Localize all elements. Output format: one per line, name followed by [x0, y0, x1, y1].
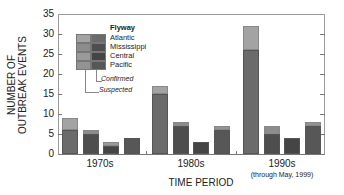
group-separator-tick: [236, 151, 237, 155]
bar-mississippi-1980s: [173, 122, 189, 154]
legend-item-pacific: Pacific: [110, 60, 132, 69]
bar-segment-confirmed: [103, 146, 119, 154]
x-category-1980s: 1980s: [146, 158, 236, 169]
bar-atlantic-1980s: [152, 86, 168, 154]
bar-pacific-1980s: [214, 126, 230, 154]
y-tick-30: 30: [34, 28, 54, 39]
y-tick-10: 10: [34, 108, 54, 119]
bar-central-1970s: [103, 142, 119, 154]
legend-title: Flyway: [110, 23, 135, 32]
legend-swatch-mississippi-suspected: [76, 43, 91, 52]
y-tick-mark: [58, 34, 62, 35]
y-tick-mark: [58, 94, 62, 95]
legend-bracket-suspected: [85, 70, 99, 93]
legend-swatch-pacific-suspected: [76, 61, 91, 70]
legend-swatch-mississippi-confirmed: [91, 43, 106, 52]
legend-swatch-atlantic-suspected: [76, 34, 91, 43]
bar-pacific-1990s: [305, 122, 321, 154]
right-tick-mark: [320, 134, 325, 135]
bar-segment-suspected: [243, 26, 259, 50]
y-tick-0: 0: [34, 148, 54, 159]
legend-note-confirmed: Confirmed: [101, 75, 133, 82]
bar-central-1990s: [284, 138, 300, 154]
legend-swatch-atlantic-confirmed: [91, 34, 106, 43]
bar-pacific-1970s: [124, 138, 140, 154]
y-tick-20: 20: [34, 68, 54, 79]
right-tick-mark: [320, 54, 325, 55]
legend-note-suspected: Suspected: [99, 86, 132, 93]
y-tick-mark: [58, 54, 62, 55]
bar-segment-confirmed: [83, 134, 99, 154]
right-tick-mark: [320, 34, 325, 35]
bar-segment-confirmed: [214, 130, 230, 154]
bar-mississippi-1990s: [264, 126, 280, 154]
bar-segment-confirmed: [193, 142, 209, 154]
legend-swatch-central-suspected: [76, 52, 91, 61]
y-tick-mark: [58, 114, 62, 115]
right-tick-mark: [320, 94, 325, 95]
bar-segment-confirmed: [264, 134, 280, 154]
legend-item-mississippi: Mississippi: [110, 42, 146, 51]
bar-atlantic-1970s: [62, 118, 78, 154]
bar-segment-confirmed: [173, 126, 189, 154]
bar-atlantic-1990s: [243, 26, 259, 154]
y-axis-label-line1: NUMBER OF: [6, 36, 17, 134]
bar-segment-confirmed: [124, 138, 140, 154]
bar-segment-confirmed: [62, 130, 78, 154]
x-category-1990s: 1990s: [237, 158, 327, 169]
bar-segment-confirmed: [284, 138, 300, 154]
y-tick-mark: [58, 74, 62, 75]
x-category-1970s: 1970s: [55, 158, 145, 169]
bar-segment-confirmed: [305, 126, 321, 154]
y-tick-25: 25: [34, 48, 54, 59]
bar-segment-suspected: [62, 118, 78, 130]
right-tick-mark: [320, 74, 325, 75]
y-tick-5: 5: [34, 128, 54, 139]
y-axis-label-line2: OUTBREAK EVENTS: [17, 36, 28, 134]
x-axis-label: TIME PERIOD: [141, 177, 261, 188]
legend-item-central: Central: [110, 51, 134, 60]
bar-segment-suspected: [264, 126, 280, 134]
y-tick-35: 35: [34, 8, 54, 19]
bar-segment-suspected: [152, 86, 168, 94]
bar-mississippi-1970s: [83, 130, 99, 154]
bar-segment-confirmed: [243, 50, 259, 154]
group-separator-tick: [146, 151, 147, 155]
y-tick-15: 15: [34, 88, 54, 99]
y-axis-label: NUMBER OF OUTBREAK EVENTS: [2, 14, 32, 155]
bar-central-1980s: [193, 142, 209, 154]
legend-swatch-central-confirmed: [91, 52, 106, 61]
legend-item-atlantic: Atlantic: [110, 33, 135, 42]
bar-segment-confirmed: [152, 94, 168, 154]
right-tick-mark: [320, 114, 325, 115]
legend-swatch-pacific-confirmed: [91, 61, 106, 70]
